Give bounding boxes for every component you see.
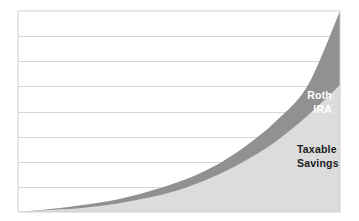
taxable-savings-label-line1: Taxable: [297, 143, 337, 155]
roth-ira-label-line2: IRA: [313, 103, 332, 115]
roth-ira-label-line1: Roth: [307, 89, 332, 101]
taxable-savings-label-line2: Savings: [297, 157, 339, 169]
chart-canvas: Roth IRA Taxable Savings: [0, 0, 359, 221]
growth-comparison-chart: Roth IRA Taxable Savings: [0, 0, 359, 221]
